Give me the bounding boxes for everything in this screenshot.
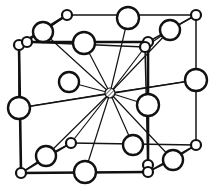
center-atom-group: [105, 88, 115, 98]
corner-back-bottom-left: [16, 168, 26, 178]
atom-interior-upleft: [59, 72, 79, 92]
site-lower-left-inner: [66, 138, 76, 148]
atom-top-left-back: [33, 22, 53, 42]
atom-left-mid-front: [8, 97, 30, 119]
atom-bottom-front-mid: [74, 161, 96, 183]
atom-right-mid-back: [185, 69, 207, 91]
atom-top-back-mid: [117, 7, 139, 29]
corner-front-top-left: [22, 37, 32, 47]
atom-bottom-right-back: [163, 150, 183, 170]
atom-interior-lowmid: [123, 135, 143, 155]
atom-top-front-mid: [73, 32, 95, 54]
center-atom: [105, 88, 115, 98]
site-top-back-left: [62, 10, 72, 20]
site-upper-right-inner: [140, 42, 150, 52]
site-lower-mid-front: [143, 167, 153, 177]
atom-right-mid-front: [137, 94, 159, 116]
corner-back-bottom-right: [191, 140, 201, 150]
crystal-structure-figure: [0, 0, 217, 191]
atom-top-right-back: [160, 20, 180, 40]
atom-interior-lowleft: [36, 146, 56, 166]
corner-back-top-right: [191, 10, 201, 20]
